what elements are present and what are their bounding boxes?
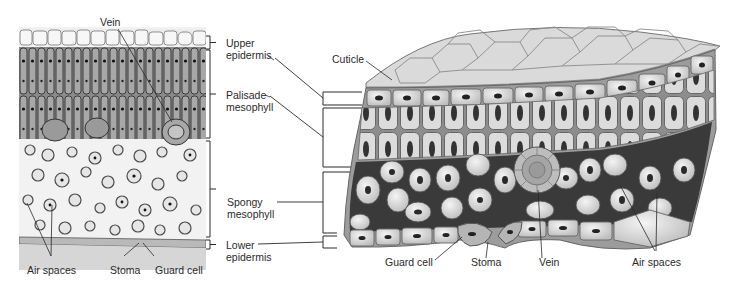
label-line-2: mesophyll [227,208,274,220]
label-palisade-mesophyll: Palisade mesophyll [226,89,273,113]
label-stoma-illustration: Stoma [471,256,501,268]
label-cuticle: Cuticle [332,53,364,65]
label-line-1: Lower [226,239,272,251]
label-stoma-micrograph: Stoma [110,264,140,276]
label-air-spaces-illustration: Air spaces [632,256,681,268]
micrograph-upper-epidermis [19,29,206,45]
label-upper-epidermis: Upper epidermis [226,37,272,61]
figure-graphics [0,0,735,303]
label-line-1: Palisade [226,89,273,101]
left-brackets [206,36,216,249]
label-line-2: mesophyll [226,101,273,113]
micrograph [19,27,206,270]
leaf-anatomy-figure: Vein Air spaces Stoma Guard cell Upper e… [0,0,735,303]
label-guard-cell-illustration: Guard cell [385,256,433,268]
label-vein-micrograph: Vein [100,16,120,28]
label-line-2: epidermis [226,49,272,61]
label-line-2: epidermis [226,251,272,263]
label-air-spaces-micrograph: Air spaces [27,264,76,276]
label-line-1: Upper [226,37,272,49]
label-lower-epidermis: Lower epidermis [226,239,272,263]
label-guard-cell-micrograph: Guard cell [155,264,203,276]
label-vein-illustration: Vein [539,256,559,268]
vein-bundle [514,147,560,193]
leaf-block-illustration [344,27,720,249]
label-line-1: Spongy [227,196,274,208]
label-spongy-mesophyll: Spongy mesophyll [227,196,274,220]
